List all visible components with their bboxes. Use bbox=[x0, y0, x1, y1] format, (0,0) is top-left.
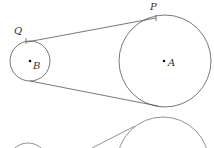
label-q: Q bbox=[14, 25, 22, 36]
tangent-bottom bbox=[30, 81, 158, 106]
circle-b-partial bbox=[8, 143, 48, 148]
tangent-partial bbox=[92, 126, 135, 148]
center-dot-b bbox=[29, 60, 32, 63]
circle-a-partial bbox=[117, 117, 209, 148]
label-p: P bbox=[149, 1, 157, 12]
pulley-diagram: A B P Q bbox=[0, 0, 214, 148]
tangent-top bbox=[27, 18, 156, 42]
figure-bottom-partial bbox=[8, 117, 209, 148]
center-dot-a bbox=[163, 60, 166, 63]
label-a: A bbox=[167, 57, 175, 68]
label-b: B bbox=[32, 60, 40, 71]
